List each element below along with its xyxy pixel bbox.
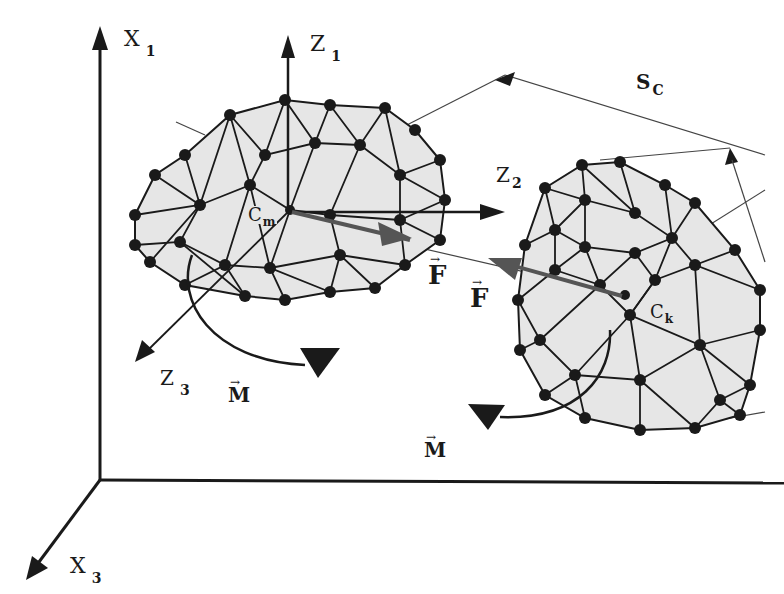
sc-arrowhead-icon [495, 72, 515, 86]
force-2-label: →F [470, 285, 488, 311]
moment-1-arrowhead-icon [300, 348, 340, 378]
contact-surface-label: SC [636, 72, 664, 92]
center-k-label: Ck [648, 303, 675, 321]
z1-arrowhead-icon [281, 35, 295, 58]
z3-arrowhead-icon [135, 340, 155, 362]
moment-2-arrowhead-icon [468, 404, 505, 430]
mesh-contact-diagram: X1 X3 Z1 Z2 Z3 Cm Ck →F →F →M →M SC [0, 0, 784, 594]
z3-label: Z3 [160, 368, 190, 388]
center-m-label: Cm [246, 206, 277, 224]
z2-label: Z2 [496, 165, 522, 185]
diagram-canvas [0, 0, 784, 594]
x3-axis [36, 480, 100, 566]
sc-arrowhead-2-icon [725, 148, 738, 165]
moment-1-label: →M [228, 385, 250, 405]
x2-axis [100, 480, 784, 483]
force-2-arrowhead-icon [488, 258, 522, 280]
z2-arrowhead-icon [480, 204, 505, 220]
x1-label: X1 [124, 28, 155, 50]
force-1-label: →F [428, 262, 446, 288]
body-m-mesh [129, 94, 451, 306]
x1-arrowhead-icon [92, 26, 108, 50]
z1-label: Z1 [310, 33, 341, 55]
body-k-mesh [512, 156, 766, 436]
x3-label: X3 [70, 555, 101, 577]
x3-arrowhead-icon [26, 556, 48, 580]
moment-2-label: →M [424, 440, 446, 460]
